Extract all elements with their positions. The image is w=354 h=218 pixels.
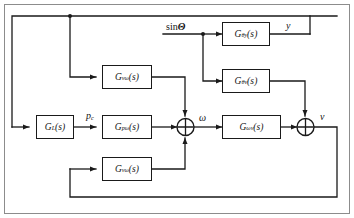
- wire-gthetav-to-sum2: [270, 81, 305, 116]
- g-omega-v-base: G: [239, 122, 246, 132]
- wire-top-rail-to-gvw-top: [70, 16, 96, 77]
- wiring-layer: [0, 0, 354, 218]
- g-theta-v-arg: (s): [247, 76, 257, 86]
- v-output-text: v: [320, 111, 324, 122]
- branch-point-sin-theta: [201, 32, 205, 36]
- g-omega-v-arg: (s): [253, 122, 263, 132]
- g-v-omega-top-sub: vω: [122, 74, 129, 81]
- g-theta-y-base: G: [235, 29, 242, 39]
- wire-top-feedback-rail: [12, 16, 337, 127]
- g-p-omega-base: G: [115, 122, 122, 132]
- g-p-omega-arg: (s): [129, 122, 139, 132]
- sin-theta-input-label: sinΘ: [166, 21, 185, 32]
- figure-border: [5, 5, 350, 214]
- transfer-block-g-v-omega-top[interactable]: Gvω(s): [102, 65, 152, 89]
- g-theta-y-arg: (s): [247, 29, 257, 39]
- transfer-block-g-p-omega[interactable]: Gpω(s): [102, 115, 152, 139]
- v-output-label: v: [320, 111, 324, 122]
- g-omega-v-sub: ωv: [246, 124, 253, 131]
- branch-point-top-feedback: [68, 14, 72, 18]
- transfer-block-g-v-omega-bottom[interactable]: Gvω(s): [102, 157, 152, 181]
- g-v-omega-top-arg: (s): [129, 72, 139, 82]
- omega-signal-label: ω: [199, 112, 206, 123]
- transfer-block-g-theta-y[interactable]: Gθy(s): [222, 22, 270, 46]
- g-v-omega-bottom-base: G: [115, 164, 122, 174]
- g-v-omega-top-base: G: [115, 72, 122, 82]
- theta-symbol: Θ: [178, 21, 186, 32]
- sin-prefix: sin: [166, 21, 178, 32]
- g-l-base: G: [45, 122, 52, 132]
- pc-signal-label: pc: [86, 110, 94, 121]
- pc-sub: c: [91, 114, 94, 121]
- summing-junction-v: [297, 119, 314, 136]
- g-theta-v-base: G: [235, 76, 242, 86]
- summing-junction-omega: [177, 119, 194, 136]
- block-diagram-figure: Gθy(s) Gθv(s) Gωv(s) GL(s) Gvω(s) Gpω(s)…: [0, 0, 354, 218]
- transfer-block-g-l[interactable]: GL(s): [36, 115, 74, 139]
- transfer-block-g-theta-v[interactable]: Gθv(s): [222, 69, 270, 93]
- y-output-label: y: [286, 20, 290, 31]
- wire-gvw-bottom-to-sum1: [152, 138, 185, 169]
- wire-theta-to-gthetav: [203, 34, 222, 81]
- y-output-text: y: [286, 20, 290, 31]
- wire-gvw-top-to-sum1: [152, 77, 185, 116]
- g-v-omega-bottom-arg: (s): [129, 164, 139, 174]
- g-p-omega-sub: pω: [122, 124, 129, 131]
- omega-text: ω: [199, 112, 206, 123]
- g-v-omega-bottom-sub: vω: [122, 166, 129, 173]
- g-l-arg: (s): [55, 122, 65, 132]
- transfer-block-g-omega-v[interactable]: Gωv(s): [222, 115, 281, 139]
